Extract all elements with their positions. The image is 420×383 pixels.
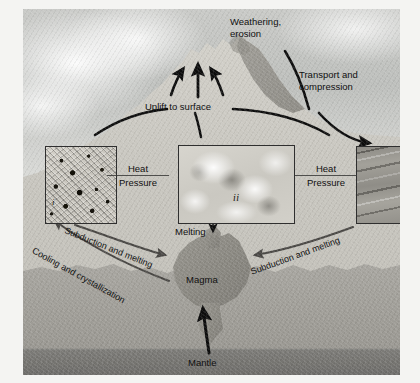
transport-compression-arrow: [319, 113, 369, 143]
mountain-shadow-face: [237, 37, 305, 113]
magma-chamber: [173, 233, 251, 309]
heat-pressure-right: Heat Pressure: [295, 163, 357, 188]
transport-compression-label: Transport and compression: [299, 69, 358, 92]
inset-label-ii: ii: [233, 192, 239, 203]
heat-label-left: Heat: [107, 163, 169, 174]
mantle-to-magma-arrow: [203, 309, 209, 353]
mantle-label: Mantle: [188, 357, 217, 369]
inset-sedimentary-rock: iii: [356, 146, 400, 224]
inset-metamorphic-rock: ii: [178, 145, 295, 224]
magma-neck: [205, 225, 221, 249]
heat-pressure-divider-right: [295, 175, 357, 176]
rock-cycle-diagram: i ii iii Weathering, erosion Transport a…: [0, 0, 420, 383]
uplift-arrow-left: [171, 69, 183, 95]
pressure-label-left: Pressure: [107, 177, 169, 188]
heat-pressure-divider-left: [107, 175, 169, 176]
uplift-arrow-right: [211, 69, 223, 95]
uplift-from-inset-ii-arrow: [195, 113, 201, 137]
weathering-erosion-label: Weathering, erosion: [230, 16, 281, 39]
uplift-from-inset-i-arrow: [95, 109, 167, 135]
heat-label-right: Heat: [295, 163, 357, 174]
magma-root: [199, 303, 223, 345]
uplift-from-inset-iii-arrow: [233, 109, 329, 135]
uplift-to-surface-label: Uplift to surface: [145, 101, 211, 113]
melting-label: Melting: [175, 226, 206, 238]
magma-label: Magma: [186, 274, 218, 286]
heat-pressure-left: Heat Pressure: [107, 163, 169, 188]
inset-label-i: i: [52, 197, 55, 207]
pressure-label-right: Pressure: [295, 177, 357, 188]
scene-photograph: i ii iii Weathering, erosion Transport a…: [23, 9, 400, 375]
